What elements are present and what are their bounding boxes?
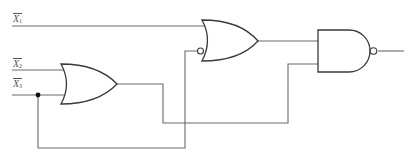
output-inversion-bubble xyxy=(370,48,377,55)
complement-bar xyxy=(13,78,22,79)
junction-dot xyxy=(36,93,41,98)
complement-bar xyxy=(13,13,22,14)
nand-gate xyxy=(318,30,370,72)
input-label-x2: X2 xyxy=(13,59,22,69)
or-gate-2 xyxy=(202,20,258,61)
input-label-x3: X3 xyxy=(13,79,22,89)
variable-subscript: 2 xyxy=(19,63,22,69)
complement-bar xyxy=(13,58,22,59)
input-label-x1: X1 xyxy=(13,14,22,24)
input-inversion-bubble xyxy=(198,48,204,54)
wire-or1-output xyxy=(117,64,318,123)
logic-circuit-diagram xyxy=(0,0,412,159)
variable-subscript: 1 xyxy=(19,18,22,24)
or-gate-1 xyxy=(61,64,117,104)
variable-subscript: 3 xyxy=(19,83,22,89)
